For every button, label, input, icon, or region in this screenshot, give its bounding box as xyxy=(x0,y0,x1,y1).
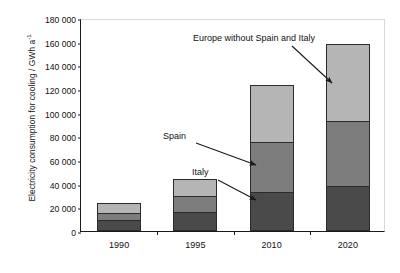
annotation-italy: Italy xyxy=(192,167,209,177)
bar-segment xyxy=(250,142,294,192)
bar-segment xyxy=(97,203,141,214)
bar-segment xyxy=(326,44,370,121)
y-tick-label: 140 000 xyxy=(45,62,81,72)
y-tick-mark xyxy=(78,20,81,21)
annotation-spain: Spain xyxy=(163,131,186,141)
x-tick-mark xyxy=(310,231,311,235)
y-tick-mark xyxy=(78,185,81,186)
bar-2020 xyxy=(326,44,370,231)
y-axis-title-text: Electricity consumption for cooling / GW… xyxy=(27,40,37,202)
x-tick-label: 1995 xyxy=(185,240,205,250)
bar-segment xyxy=(250,85,294,142)
y-tick-mark xyxy=(78,91,81,92)
bar-segment xyxy=(250,192,294,231)
y-tick-mark xyxy=(78,138,81,139)
bar-segment xyxy=(97,213,141,220)
bar-1990 xyxy=(97,203,141,231)
y-tick-mark xyxy=(78,233,81,234)
bar-2010 xyxy=(250,85,294,231)
bar-segment xyxy=(173,196,217,213)
x-tick-label: 2010 xyxy=(262,240,282,250)
y-tick-mark xyxy=(78,67,81,68)
y-tick-label: 120 000 xyxy=(45,86,81,96)
annotation-europe: Europe without Spain and Italy xyxy=(193,33,315,43)
bar-chart: Electricity consumption for cooling / GW… xyxy=(0,0,400,273)
y-tick-mark xyxy=(78,162,81,163)
y-tick-label: 160 000 xyxy=(45,39,81,49)
y-axis-title-exponent: -1 xyxy=(25,34,32,40)
x-tick-mark xyxy=(157,231,158,235)
y-tick-label: 100 000 xyxy=(45,110,81,120)
bar-segment xyxy=(326,121,370,186)
bar-segment xyxy=(173,212,217,231)
y-axis-title: Electricity consumption for cooling / GW… xyxy=(25,8,37,228)
bar-segment xyxy=(326,186,370,231)
y-tick-label: 60 000 xyxy=(50,157,81,167)
x-tick-label: 1990 xyxy=(109,240,129,250)
y-tick-mark xyxy=(78,114,81,115)
y-tick-label: 40 000 xyxy=(50,181,81,191)
y-tick-label: 20 000 xyxy=(50,204,81,214)
y-tick-mark xyxy=(78,209,81,210)
y-tick-mark xyxy=(78,43,81,44)
x-tick-label: 2020 xyxy=(338,240,358,250)
x-tick-mark xyxy=(234,231,235,235)
plot-area: 180 000160 000140 000120 000100 00080 00… xyxy=(80,19,385,232)
bar-1995 xyxy=(173,179,217,231)
y-tick-label: 80 000 xyxy=(50,133,81,143)
y-tick-label: 180 000 xyxy=(45,15,81,25)
bar-segment xyxy=(97,220,141,231)
bar-segment xyxy=(173,179,217,196)
